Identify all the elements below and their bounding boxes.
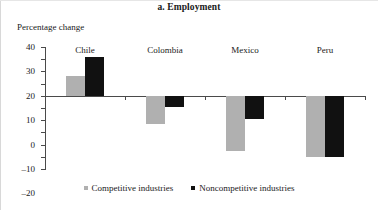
bar-peru-competitive (306, 96, 325, 157)
chart-legend: Competitive industriesNoncompetitive ind… (0, 183, 378, 193)
y-axis-tick: 40 (41, 47, 46, 48)
square-marker-icon (191, 186, 195, 190)
x-axis-tick (125, 96, 126, 100)
bar-mexico-noncompetitive (245, 96, 264, 119)
x-axis-tick (365, 96, 366, 100)
y-axis-title: Percentage change (17, 22, 84, 32)
y-axis-tick: –10 (41, 108, 46, 109)
y-axis-tick: –60 (41, 169, 46, 170)
legend-label: Noncompetitive industries (199, 183, 294, 193)
square-marker-icon (84, 186, 88, 190)
bar-colombia-noncompetitive (165, 96, 184, 107)
page-edge-top (0, 0, 378, 1)
y-axis-tick: 20 (41, 71, 46, 72)
bar-mexico-competitive (226, 96, 245, 151)
legend-item-competitive: Competitive industries (84, 183, 174, 193)
y-axis-tick: –50 (41, 157, 46, 158)
y-axis-tick: –30 (41, 132, 46, 133)
y-axis-tick-label: 0 (31, 140, 36, 149)
employment-bar-chart-figure: a. Employment Percentage change 40302010… (0, 0, 378, 210)
y-axis-tick-label: –10 (22, 165, 36, 174)
category-label-mexico: Mexico (231, 45, 259, 55)
category-label-chile: Chile (75, 45, 95, 55)
page-edge-left (0, 0, 1, 210)
y-axis-tick: –20 (41, 120, 46, 121)
panel-title: a. Employment (0, 2, 378, 12)
legend-item-noncompetitive: Noncompetitive industries (191, 183, 294, 193)
plot-area: 403020100–10–20–30–40–50–60 ChileColombi… (45, 47, 365, 169)
y-axis-tick-label: 40 (26, 43, 35, 52)
bar-chile-noncompetitive (85, 57, 104, 96)
bar-chile-competitive (66, 76, 85, 96)
x-axis-tick (45, 96, 46, 100)
y-axis-tick-label: 30 (26, 67, 35, 76)
y-axis-tick: 30 (41, 59, 46, 60)
x-axis-tick (205, 96, 206, 100)
y-axis-tick-label: 10 (26, 116, 35, 125)
category-label-peru: Peru (317, 45, 334, 55)
y-axis-tick: 10 (41, 84, 46, 85)
y-axis-tick-label: 20 (26, 91, 35, 100)
x-axis-tick (285, 96, 286, 100)
category-label-colombia: Colombia (147, 45, 183, 55)
bar-peru-noncompetitive (325, 96, 344, 157)
legend-label: Competitive industries (92, 183, 174, 193)
bar-colombia-competitive (146, 96, 165, 124)
y-axis-tick: –40 (41, 145, 46, 146)
